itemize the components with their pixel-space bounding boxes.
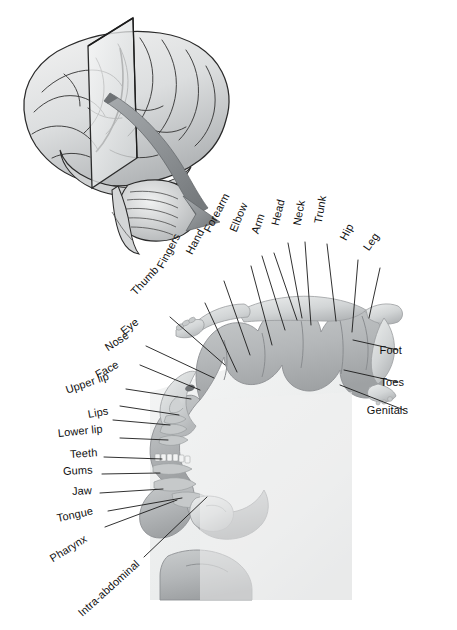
label-jaw: Jaw bbox=[72, 485, 92, 497]
label-toes: Toes bbox=[380, 377, 404, 388]
label-genitals: Genitals bbox=[367, 405, 408, 416]
brain-lateral-illustration bbox=[24, 18, 229, 254]
sensory-homunculus-figure: FingersHandForearmElbowArmHeadNeckTrunkH… bbox=[0, 0, 457, 630]
label-gums: Gums bbox=[63, 464, 93, 477]
label-foot: Foot bbox=[380, 345, 402, 356]
label-teeth: Teeth bbox=[70, 447, 98, 460]
illustration-layer bbox=[0, 0, 457, 630]
